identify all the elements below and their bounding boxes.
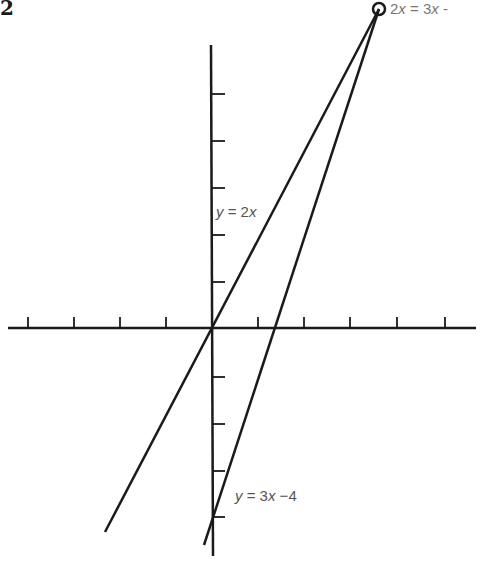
line1-label: y = 2x [216,203,256,220]
line-y-equals-3x-minus-4 [204,9,379,545]
y-axis [211,45,213,556]
line-y-equals-2x [105,9,379,532]
line2-label: y = 3x −4 [235,487,297,504]
x-axis-ticks [28,317,445,328]
intersection-label: 2x = 3x - [390,0,448,17]
graph-canvas [0,0,482,563]
